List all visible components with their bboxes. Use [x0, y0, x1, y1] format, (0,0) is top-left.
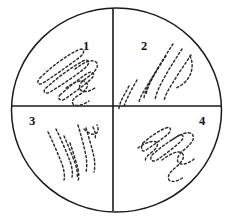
streak-plate-svg: 1 2 3 4 [0, 0, 234, 224]
quadrant-label-1: 1 [83, 39, 89, 53]
streak-plate-figure: 1 2 3 4 [0, 0, 234, 224]
petri-dish-outline [12, 8, 222, 212]
quadrant-label-2: 2 [141, 39, 147, 53]
quadrant-label-3: 3 [29, 114, 35, 128]
quadrant-label-4: 4 [199, 114, 206, 128]
